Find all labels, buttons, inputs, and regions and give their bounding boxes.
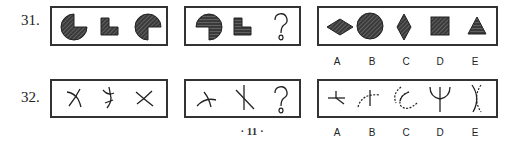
option-e-triangle-icon[interactable] xyxy=(467,16,487,36)
l-shape-icon xyxy=(100,17,120,37)
q32-option-b-label[interactable]: B xyxy=(369,127,376,138)
q31-partial-box xyxy=(184,6,301,46)
option-b-circle-icon[interactable] xyxy=(356,12,384,40)
option-e-dashed-x-icon[interactable] xyxy=(469,84,485,114)
q32-stem-box xyxy=(50,79,168,118)
q32-partial-box xyxy=(184,79,301,118)
option-d-square-icon[interactable] xyxy=(430,16,450,36)
q31-option-b-label[interactable]: B xyxy=(369,56,376,67)
option-d-trident-icon[interactable] xyxy=(428,85,452,113)
x-cross-icon xyxy=(134,89,156,109)
question-number-31: 31. xyxy=(21,12,40,29)
q31-option-d-label[interactable]: D xyxy=(436,56,443,67)
q31-stem-box xyxy=(50,6,168,46)
circle-quarter-missing-icon xyxy=(134,13,162,41)
option-a-short-cross-icon[interactable] xyxy=(327,89,347,109)
option-c-diamond-icon[interactable] xyxy=(396,13,412,41)
q32-option-a-label[interactable]: A xyxy=(334,127,341,138)
arc-cross-icon xyxy=(195,88,219,110)
question-mark-icon xyxy=(272,84,290,116)
q32-options-box xyxy=(317,79,498,118)
q32-option-e-label[interactable]: E xyxy=(472,127,479,138)
crossed-lines-icon xyxy=(100,86,120,112)
q32-option-c-label[interactable]: C xyxy=(402,127,409,138)
option-b-dashed-arc-icon[interactable] xyxy=(356,87,382,111)
slanted-cross-icon xyxy=(234,84,258,114)
l-shape-icon xyxy=(233,17,253,37)
q31-option-e-label[interactable]: E xyxy=(472,56,479,67)
circle-quarter-missing-icon xyxy=(60,13,88,41)
option-c-dashed-curve-icon[interactable] xyxy=(391,85,421,113)
q31-option-c-label[interactable]: C xyxy=(402,56,409,67)
question-number-32: 32. xyxy=(21,89,40,106)
option-a-diamond-icon[interactable] xyxy=(326,18,354,36)
page-number: · 11 · xyxy=(240,125,263,137)
q31-option-a-label[interactable]: A xyxy=(334,56,341,67)
circle-quarter-missing-icon xyxy=(195,13,223,41)
question-mark-icon xyxy=(272,11,290,43)
q31-options-box xyxy=(317,6,498,46)
q32-option-d-label[interactable]: D xyxy=(436,127,443,138)
crossed-lines-icon xyxy=(64,87,86,111)
